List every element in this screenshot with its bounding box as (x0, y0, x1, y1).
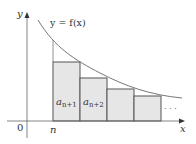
y-axis-arrow-icon (25, 12, 30, 18)
n-label: n (50, 124, 56, 135)
rect-a-n-plus-1 (53, 62, 80, 121)
x-axis-label: x (180, 123, 186, 134)
rect-a-n-plus-3 (107, 89, 134, 121)
origin-label: 0 (17, 122, 23, 133)
y-axis-label: y (16, 8, 23, 19)
ellipsis: · · · (164, 104, 177, 113)
rect-label-sub: n+2 (89, 101, 104, 109)
curve-label-text: y = f(x) (49, 17, 86, 28)
curve-label: y = f(x) (49, 17, 86, 28)
rect-label-sub: n+1 (62, 101, 77, 109)
rect-a-n-plus-4 (134, 96, 161, 121)
integral-test-diagram: y x 0 n y = f(x) an+1 an+2 · · · (0, 0, 196, 144)
